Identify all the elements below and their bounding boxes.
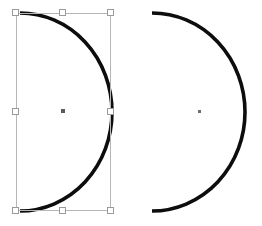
shape-layer <box>0 0 262 226</box>
arc-path-right[interactable] <box>152 13 245 211</box>
vector-editor-canvas[interactable] <box>0 0 262 226</box>
arc-path-left[interactable] <box>20 13 112 211</box>
